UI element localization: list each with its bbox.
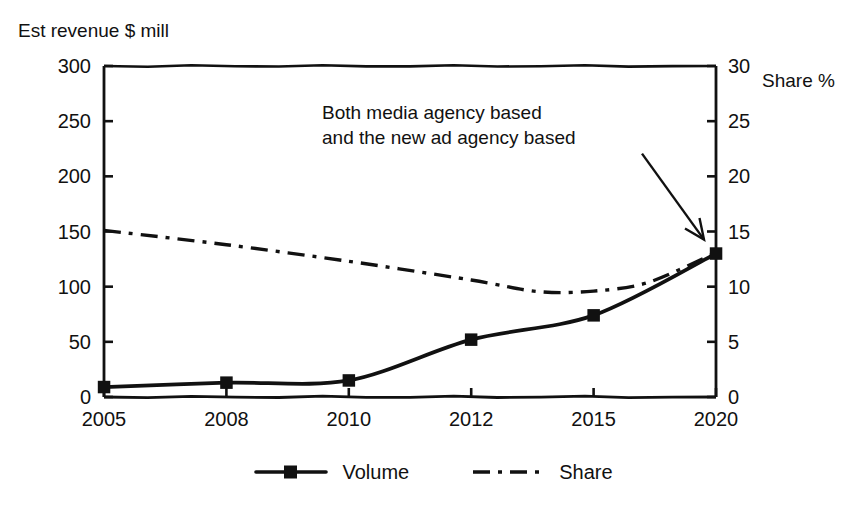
right-axis-title: Share % [762, 70, 835, 92]
chart-container: Est revenue $ mill Share % Both media ag… [0, 0, 867, 519]
legend-label-volume: Volume [342, 462, 409, 482]
top-axis-line [104, 65, 716, 67]
left-tick-label-250: 250 [58, 111, 91, 131]
x-tick-label-2005: 2005 [82, 409, 127, 429]
series-line-volume [104, 254, 716, 388]
left-tick-label-0: 0 [80, 387, 91, 407]
right-tick-label-15: 15 [728, 222, 750, 242]
data-point-volume-2020 [710, 247, 723, 259]
annotation-callout: Both media agency based and the new ad a… [322, 100, 576, 150]
data-point-volume-2012 [465, 333, 478, 346]
data-point-volume-2010 [343, 374, 356, 387]
annotation-arrow [642, 154, 704, 240]
data-point-volume-2008 [220, 376, 233, 389]
legend-key-volume-icon [254, 463, 328, 481]
chart-legend: Volume Share [0, 452, 867, 492]
annotation-line-1: Both media agency based [322, 100, 576, 125]
right-tick-label-10: 10 [728, 277, 750, 297]
right-tick-label-20: 20 [728, 166, 750, 186]
x-tick-label-2015: 2015 [571, 409, 616, 429]
x-tick-label-2008: 2008 [204, 409, 249, 429]
data-point-volume-2015 [587, 309, 600, 322]
x-tick-label-2012: 2012 [449, 409, 494, 429]
annotation-line-2: and the new ad agency based [322, 125, 576, 150]
right-tick-label-25: 25 [728, 111, 750, 131]
plot-area [0, 0, 867, 519]
legend-label-share: Share [559, 462, 612, 482]
right-tick-label-0: 0 [728, 387, 739, 407]
legend-key-share-icon [471, 463, 545, 481]
data-point-volume-2005 [98, 381, 111, 394]
legend-item-volume: Volume [254, 462, 409, 482]
left-tick-label-150: 150 [58, 222, 91, 242]
left-tick-label-300: 300 [58, 56, 91, 76]
left-tick-label-100: 100 [58, 277, 91, 297]
left-tick-label-200: 200 [58, 166, 91, 186]
right-tick-label-30: 30 [728, 56, 750, 76]
series-line-share [104, 230, 716, 292]
left-axis-title: Est revenue $ mill [18, 20, 169, 42]
right-tick-label-5: 5 [728, 332, 739, 352]
left-tick-label-50: 50 [69, 332, 91, 352]
arrow-shaft [642, 154, 704, 240]
bottom-axis-line [104, 396, 716, 398]
x-tick-label-2010: 2010 [327, 409, 372, 429]
x-tick-label-2020: 2020 [694, 409, 739, 429]
legend-item-share: Share [471, 462, 612, 482]
